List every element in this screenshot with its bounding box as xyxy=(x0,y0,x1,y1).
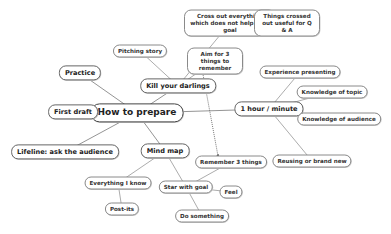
node-crossed-out-useful[interactable]: Things crossed out useful for Q & A xyxy=(254,10,320,37)
node-know-audience[interactable]: Knowledge of audience xyxy=(297,113,381,126)
node-post-its[interactable]: Post-its xyxy=(105,203,139,216)
node-do-something[interactable]: Do something xyxy=(175,210,229,223)
node-experience[interactable]: Experience presenting xyxy=(260,66,341,79)
node-root[interactable]: How to prepare xyxy=(91,103,184,122)
node-know-topic[interactable]: Knowledge of topic xyxy=(297,86,368,99)
node-everything-i-know[interactable]: Everything I know xyxy=(85,177,152,190)
node-mind-map[interactable]: Mind map xyxy=(141,143,190,158)
node-aim-3[interactable]: Aim for 3 things to remember xyxy=(187,48,243,75)
node-hour-minute[interactable]: 1 hour / minute xyxy=(234,101,303,116)
node-feel[interactable]: Feel xyxy=(219,186,242,199)
node-star-goal[interactable]: Star with goal xyxy=(159,181,213,194)
node-practice[interactable]: Practice xyxy=(59,65,101,80)
node-kill-darlings[interactable]: Kill your darlings xyxy=(140,78,216,93)
mind-map-canvas: How to prepareFirst draftPracticeLifelin… xyxy=(0,0,391,234)
node-first-draft[interactable]: First draft xyxy=(48,104,98,119)
node-pitching-story[interactable]: Pitching story xyxy=(113,45,167,58)
node-remember-3[interactable]: Remember 3 things xyxy=(195,156,267,169)
node-lifeline[interactable]: Lifeline: ask the audience xyxy=(11,144,119,159)
node-reusing[interactable]: Reusing or brand new xyxy=(272,155,351,168)
